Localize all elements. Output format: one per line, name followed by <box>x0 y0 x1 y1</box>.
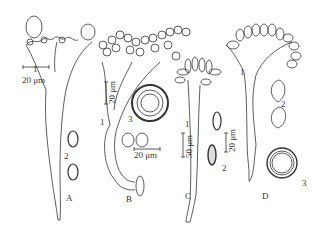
panel-c-spore-2 <box>208 145 216 165</box>
panel-d-label: D <box>262 192 269 201</box>
illustration-canvas <box>0 0 325 237</box>
panel-c-label: C <box>185 192 191 201</box>
panel-d-part-2-label: 2 <box>281 100 286 109</box>
panel-b-scale-label: 20 μm <box>108 81 117 104</box>
panel-c-spore-scale-label: 20 μm <box>228 129 237 152</box>
panel-d-spore-2 <box>271 107 285 128</box>
panel-a-part-2-label: 2 <box>64 152 69 161</box>
panel-c-spore-1 <box>213 112 221 130</box>
panel-b-chlamydospore <box>132 85 168 121</box>
panel-b-label: B <box>126 195 132 204</box>
panel-a-spore-1 <box>68 131 78 147</box>
panel-a-conidiophore <box>26 16 95 220</box>
panel-a-part-1-label: 1 <box>33 65 38 74</box>
panel-a-scale-label: 20 μm <box>22 76 45 85</box>
panel-b-part-3-label: 3 <box>128 115 133 124</box>
panel-c-scale-label: 50 μm <box>185 135 194 158</box>
panel-b-part-1-label: 1 <box>100 118 105 127</box>
panel-c-part-1-label: 1 <box>185 120 190 129</box>
panel-a-spore-2 <box>68 164 78 180</box>
panel-d-chlamydospore <box>267 148 297 178</box>
panel-b-spore-2 <box>136 133 148 147</box>
panel-d-part-3-label: 3 <box>302 179 307 188</box>
panel-b-spore-1 <box>122 133 134 147</box>
panel-d-conidiophore <box>226 24 301 181</box>
panel-c-conidiophore <box>175 57 221 222</box>
panel-a-label: A <box>66 194 73 203</box>
panel-b-spore-scale-label: 20 μm <box>134 151 157 160</box>
panel-b-conidiophore <box>99 26 190 196</box>
panel-c-part-2-label: 2 <box>222 164 227 173</box>
panel-d-part-1-label: 1 <box>240 68 245 77</box>
